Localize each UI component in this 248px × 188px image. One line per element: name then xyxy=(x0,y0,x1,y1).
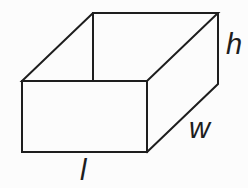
rectangular-prism-diagram: h w l xyxy=(0,0,248,188)
length-label: l xyxy=(80,154,88,186)
diagram-canvas: h w l xyxy=(0,0,248,188)
box-top-face-edge xyxy=(22,13,218,81)
box-front-face-edge xyxy=(22,81,147,152)
width-label: w xyxy=(189,112,212,144)
height-label: h xyxy=(226,28,242,60)
